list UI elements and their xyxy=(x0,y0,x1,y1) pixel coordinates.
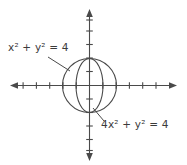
equation-label-circle: x² + y² = 4 xyxy=(8,42,69,53)
coordinate-plane xyxy=(0,0,187,165)
equation-ellipse-text: 4x² + y² = 4 xyxy=(101,118,169,130)
leader-line-circle xyxy=(48,57,70,71)
x-axis-right-arrow xyxy=(169,82,177,89)
equation-circle-text: x² + y² = 4 xyxy=(8,41,69,53)
y-axis-bottom-arrow xyxy=(86,153,93,161)
equation-label-ellipse: 4x² + y² = 4 xyxy=(101,119,169,130)
y-axis-top-arrow xyxy=(86,9,93,17)
graph-figure: x² + y² = 4 4x² + y² = 4 xyxy=(0,0,187,165)
x-axis-left-arrow xyxy=(10,82,18,89)
